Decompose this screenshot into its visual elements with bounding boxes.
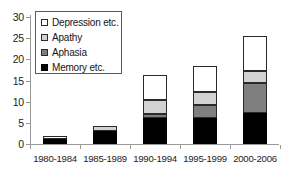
bar-segment xyxy=(143,100,167,113)
x-tick-label: 1985-1989 xyxy=(80,153,130,164)
y-tick-label: 30 xyxy=(0,12,24,22)
bar-segment xyxy=(193,92,217,105)
bar-segment xyxy=(93,126,117,131)
bar-segment xyxy=(243,83,267,112)
bar-segment xyxy=(193,66,217,92)
y-tick-label: 10 xyxy=(0,97,24,107)
bar-segment xyxy=(143,114,167,118)
legend-item-label: Depression etc. xyxy=(52,17,118,28)
bar-segment xyxy=(243,36,267,71)
x-tick-mark xyxy=(30,145,31,149)
chart-legend: Depression etc. Apathy Aphasia Memory et… xyxy=(35,11,122,74)
x-tick-label: 1990-1994 xyxy=(130,153,180,164)
light-gray-square-icon xyxy=(41,34,48,41)
stacked-bar-chart: 051015202530 1980-19841985-19891990-1994… xyxy=(0,0,287,175)
x-tick-label: 2000-2006 xyxy=(230,153,280,164)
x-tick-label: 1980-1984 xyxy=(30,153,80,164)
x-tick-mark xyxy=(230,145,231,149)
legend-item-label: Aphasia xyxy=(52,47,87,58)
bar-segment xyxy=(243,113,267,144)
y-tick-label: 15 xyxy=(0,76,24,86)
x-tick-mark xyxy=(130,145,131,149)
x-tick-label: 1995-1999 xyxy=(180,153,230,164)
legend-item-memory: Memory etc. xyxy=(41,60,121,75)
bar-segment xyxy=(193,105,217,118)
legend-item-label: Memory etc. xyxy=(52,62,105,73)
bar-segment xyxy=(143,75,167,101)
x-tick-mark xyxy=(280,145,281,149)
bar-segment xyxy=(43,139,67,144)
legend-item-apathy: Apathy xyxy=(41,30,121,45)
y-tick-label: 25 xyxy=(0,33,24,43)
white-square-icon xyxy=(41,19,48,26)
bar-segment xyxy=(93,131,117,144)
x-tick-mark xyxy=(180,145,181,149)
bar-segment xyxy=(243,71,267,83)
dark-gray-square-icon xyxy=(41,49,48,56)
bar-segment xyxy=(143,118,167,144)
x-tick-mark xyxy=(80,145,81,149)
bar-stack xyxy=(193,17,217,144)
bar-segment xyxy=(193,118,217,144)
y-tick-label: 5 xyxy=(0,118,24,128)
black-square-icon xyxy=(41,64,48,71)
y-tick-label: 0 xyxy=(0,139,24,149)
legend-item-depression: Depression etc. xyxy=(41,15,121,30)
bar-stack xyxy=(143,17,167,144)
y-tick-label: 20 xyxy=(0,54,24,64)
x-axis-line xyxy=(30,144,279,145)
bar-stack xyxy=(243,17,267,144)
legend-item-aphasia: Aphasia xyxy=(41,45,121,60)
legend-item-label: Apathy xyxy=(52,32,82,43)
bar-segment xyxy=(43,136,67,139)
